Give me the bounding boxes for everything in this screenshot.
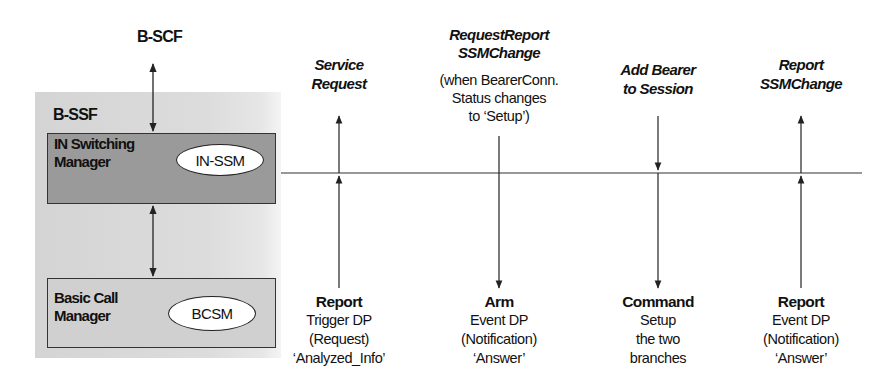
label-line: Service (289, 55, 389, 74)
command-setup-label: Command Setup the two branches (593, 292, 723, 368)
label-title: Arm (434, 292, 564, 311)
label-line: Add Bearer (598, 60, 718, 79)
report-ssm-change-label: Report SSMChange (746, 55, 856, 93)
label-line: SSMChange (746, 74, 856, 93)
label-line: (Notification) (434, 330, 564, 349)
label-line: the two (593, 330, 723, 349)
request-report-condition-label: (when BearerConn. Status changes to ‘Set… (424, 71, 574, 125)
label-line: ‘Answer’ (434, 349, 564, 368)
label-line: Request (289, 74, 389, 93)
label-line: SSMChange (434, 44, 564, 62)
request-report-ssm-change-label: RequestReport SSMChange (434, 26, 564, 62)
label-title: Command (593, 292, 723, 311)
label-line: to Session (598, 79, 718, 98)
label-line: Status changes (424, 89, 574, 107)
label-line: Event DP (434, 311, 564, 330)
label-line: Event DP (736, 311, 866, 330)
label-title: Report (736, 292, 866, 311)
label-line: ‘Analyzed_Info’ (274, 349, 404, 368)
label-line: RequestReport (434, 26, 564, 44)
label-line: branches (593, 349, 723, 368)
label-line: (Request) (274, 330, 404, 349)
label-title: Report (274, 292, 404, 311)
label-line: Trigger DP (274, 311, 404, 330)
label-line: (when BearerConn. (424, 71, 574, 89)
arm-event-dp-label: Arm Event DP (Notification) ‘Answer’ (434, 292, 564, 368)
label-line: Report (746, 55, 856, 74)
service-request-label: Service Request (289, 55, 389, 93)
add-bearer-to-session-label: Add Bearer to Session (598, 60, 718, 98)
label-line: to ‘Setup’) (424, 107, 574, 125)
report-event-dp-label: Report Event DP (Notification) ‘Answer’ (736, 292, 866, 368)
label-line: (Notification) (736, 330, 866, 349)
label-line: Setup (593, 311, 723, 330)
label-line: ‘Answer’ (736, 349, 866, 368)
report-trigger-dp-label: Report Trigger DP (Request) ‘Analyzed_In… (274, 292, 404, 368)
